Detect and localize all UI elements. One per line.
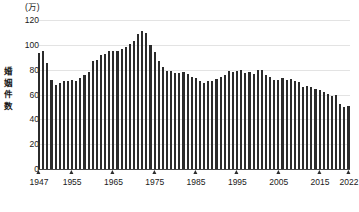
bar bbox=[174, 73, 176, 169]
y-tick-label: 0 bbox=[13, 165, 39, 174]
x-tick-mark bbox=[70, 170, 74, 174]
bar bbox=[244, 73, 246, 169]
marriage-count-bar-chart: (万) 婚姻件数 020406080100120 (年) 19471955196… bbox=[0, 0, 359, 212]
bar bbox=[294, 81, 296, 169]
bar bbox=[220, 77, 222, 169]
bar bbox=[166, 71, 168, 169]
bar bbox=[149, 45, 151, 169]
x-tick-label: 1955 bbox=[63, 177, 82, 188]
bar bbox=[265, 75, 267, 169]
y-axis-unit-label: (万) bbox=[25, 2, 40, 12]
bar bbox=[104, 54, 106, 169]
bar bbox=[306, 86, 308, 169]
bar bbox=[133, 41, 135, 169]
bar bbox=[71, 80, 73, 169]
bar bbox=[83, 75, 85, 169]
bar bbox=[129, 44, 131, 169]
bar bbox=[187, 74, 189, 169]
x-tick-label: 2022 bbox=[339, 177, 358, 188]
y-tick-label: 80 bbox=[13, 65, 39, 74]
x-tick-label: 2015 bbox=[311, 177, 330, 188]
bar bbox=[162, 67, 164, 169]
bar bbox=[261, 70, 263, 169]
x-tick-mark bbox=[193, 170, 197, 174]
bar bbox=[273, 80, 275, 169]
x-tick-label: 1975 bbox=[145, 177, 164, 188]
bar bbox=[46, 63, 48, 169]
bar bbox=[67, 81, 69, 169]
bar bbox=[178, 73, 180, 169]
bar bbox=[50, 80, 52, 169]
x-tick-labels: (年) 194719551965197519851995200520152022 bbox=[38, 177, 350, 191]
bar bbox=[182, 72, 184, 169]
bar bbox=[232, 72, 234, 169]
bar bbox=[302, 87, 304, 169]
x-tick-mark bbox=[276, 170, 280, 174]
x-tick-label: 1965 bbox=[104, 177, 123, 188]
bar bbox=[339, 104, 341, 169]
y-tick-label: 120 bbox=[13, 16, 39, 25]
x-tick-marks bbox=[38, 170, 350, 176]
bar bbox=[154, 52, 156, 169]
bar bbox=[137, 34, 139, 169]
bar bbox=[170, 71, 172, 169]
bar bbox=[42, 51, 44, 169]
x-tick-label: 1995 bbox=[228, 177, 247, 188]
bar bbox=[195, 78, 197, 169]
x-tick-mark bbox=[317, 170, 321, 174]
bar bbox=[121, 49, 123, 169]
bar bbox=[228, 71, 230, 169]
bar bbox=[277, 80, 279, 169]
bar bbox=[75, 81, 77, 169]
x-tick-mark bbox=[36, 170, 40, 174]
bar bbox=[319, 90, 321, 169]
bar bbox=[290, 79, 292, 169]
y-tick-label: 60 bbox=[13, 90, 39, 99]
bar bbox=[96, 60, 98, 169]
bar bbox=[248, 72, 250, 169]
bar bbox=[38, 53, 40, 169]
bar bbox=[335, 95, 337, 169]
bar bbox=[199, 81, 201, 169]
bar bbox=[310, 87, 312, 169]
bar bbox=[286, 80, 288, 169]
bar bbox=[347, 106, 349, 169]
bar bbox=[331, 96, 333, 169]
bar bbox=[59, 83, 61, 169]
bar bbox=[92, 61, 94, 169]
bar bbox=[88, 72, 90, 169]
bar bbox=[281, 78, 283, 169]
bar bbox=[343, 107, 345, 169]
x-tick-label: 1985 bbox=[187, 177, 206, 188]
y-tick-label: 100 bbox=[13, 40, 39, 49]
x-tick-mark bbox=[235, 170, 239, 174]
bar bbox=[145, 33, 147, 169]
bar bbox=[191, 77, 193, 169]
bar bbox=[314, 89, 316, 169]
bar bbox=[327, 94, 329, 169]
bar bbox=[158, 61, 160, 169]
y-tick-label: 40 bbox=[13, 115, 39, 124]
bar bbox=[207, 81, 209, 169]
bar bbox=[257, 70, 259, 169]
bar bbox=[141, 31, 143, 169]
plot-area: 020406080100120 bbox=[38, 20, 350, 170]
bar bbox=[269, 77, 271, 169]
bar bbox=[253, 74, 255, 169]
bar bbox=[211, 81, 213, 169]
bar bbox=[125, 47, 127, 169]
bar bbox=[108, 51, 110, 169]
bar bbox=[63, 81, 65, 169]
bar bbox=[240, 70, 242, 169]
bar bbox=[112, 51, 114, 169]
bar bbox=[116, 51, 118, 169]
bar bbox=[224, 75, 226, 169]
bar bbox=[215, 79, 217, 169]
bar bbox=[55, 85, 57, 169]
x-tick-mark bbox=[346, 170, 350, 174]
x-tick-label: 2005 bbox=[269, 177, 288, 188]
bar bbox=[323, 92, 325, 169]
bar bbox=[203, 83, 205, 169]
bar bbox=[298, 82, 300, 169]
y-tick-label: 20 bbox=[13, 140, 39, 149]
